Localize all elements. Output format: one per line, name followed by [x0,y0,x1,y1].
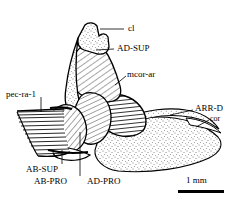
scale-bar-label: 1 mm [186,175,207,185]
label-mcor-ar: mcor-ar [127,69,155,79]
label-cor: cor [210,114,220,124]
label-pec-ra-1: pec-ra-1 [6,89,36,99]
label-ad-pro: AD-PRO [87,176,121,186]
label-arr-d: ARR-D [195,103,223,113]
figure-panel: cl AD-SUP mcor-ar ARR-D cor pec-ra-1 AB-… [0,0,233,205]
label-ab-sup: AB-SUP [26,164,58,174]
scale-bar-line [178,190,224,193]
label-cl: cl [128,23,135,33]
structure-pectoral-rays [17,109,70,156]
label-ab-pro: AB-PRO [34,176,67,186]
label-ad-sup: AD-SUP [117,43,150,53]
